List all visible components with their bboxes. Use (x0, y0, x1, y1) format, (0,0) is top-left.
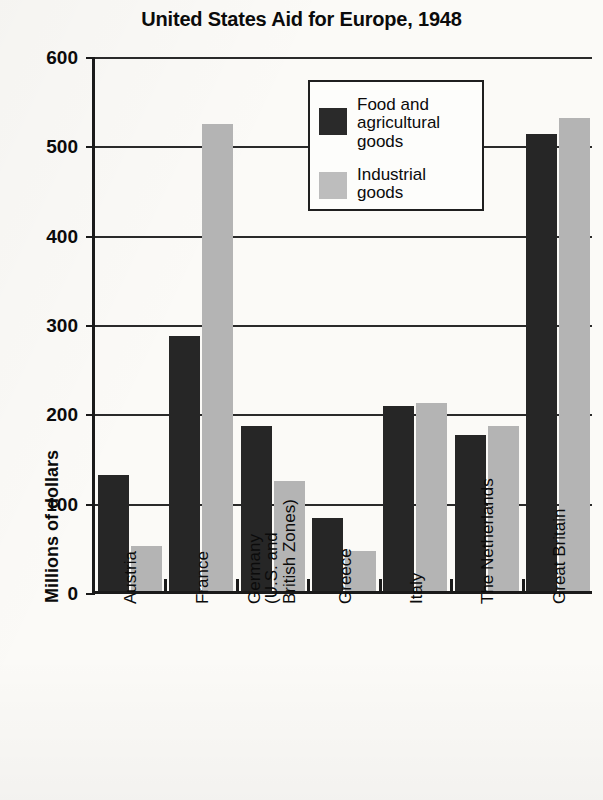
x-axis-tick (522, 579, 525, 592)
chart-legend: Food and agricultural goodsIndustrial go… (308, 80, 484, 211)
x-axis-tick (450, 579, 453, 592)
y-axis-tick-label: 400 (12, 226, 78, 248)
y-axis-tick (86, 146, 95, 148)
x-axis-tick (164, 579, 167, 592)
gridline (95, 57, 592, 59)
legend-swatch (319, 108, 347, 135)
bar (241, 426, 272, 591)
y-axis-tick (86, 593, 95, 595)
y-axis-title: Millions of dollars (42, 450, 63, 603)
chart-page: United States Aid for Europe, 1948 Milli… (0, 0, 603, 800)
gridline (95, 236, 592, 238)
bar (383, 406, 414, 591)
gridline (95, 325, 592, 327)
y-axis-tick-label: 500 (12, 136, 78, 158)
bar (98, 475, 129, 591)
bar (274, 481, 305, 591)
x-axis-tick (236, 579, 239, 592)
bar (416, 403, 447, 591)
bar (559, 118, 590, 591)
legend-swatch (319, 172, 347, 199)
y-axis-tick-label: 600 (12, 47, 78, 69)
y-axis-tick (86, 325, 95, 327)
bar (202, 124, 233, 591)
y-axis-tick (86, 504, 95, 506)
bar (455, 435, 486, 591)
bar (169, 336, 200, 591)
x-axis-tick (307, 579, 310, 592)
bar (312, 518, 343, 591)
y-axis-tick (86, 414, 95, 416)
bar (345, 551, 376, 591)
bar (488, 426, 519, 591)
y-axis-tick (86, 236, 95, 238)
bar (131, 546, 162, 591)
y-axis-tick (86, 57, 95, 59)
chart-title: United States Aid for Europe, 1948 (0, 8, 603, 31)
legend-label: Food and agricultural goods (357, 96, 440, 151)
legend-label: Industrial goods (357, 166, 426, 203)
y-axis-title-wrap: Millions of dollars (20, 250, 48, 450)
bar (526, 134, 557, 591)
x-axis-tick (379, 579, 382, 592)
